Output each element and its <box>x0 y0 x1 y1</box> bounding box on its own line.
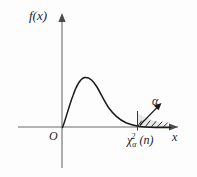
chi-square-distribution-figure: f(x) O x α χ2α(n) <box>0 0 197 177</box>
critical-value-label: χ2α(n) <box>127 134 153 146</box>
x-axis-label: x <box>172 131 177 143</box>
tail-shaded-region <box>138 114 175 128</box>
y-axis-arrowhead <box>58 13 65 22</box>
critical-value-subscript: α <box>132 140 136 149</box>
plot-canvas <box>0 0 197 177</box>
tail-area-alpha-label: α <box>152 95 158 107</box>
critical-value-argument: (n) <box>139 133 153 147</box>
origin-label: O <box>49 130 58 142</box>
y-axis-label: f(x) <box>29 9 47 22</box>
